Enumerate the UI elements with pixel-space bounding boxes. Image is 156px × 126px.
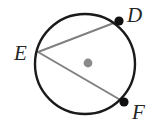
label-e: E — [13, 41, 27, 65]
label-f: F — [131, 100, 145, 124]
chord-ef — [38, 52, 124, 102]
point-d-dot — [114, 16, 123, 25]
label-d: D — [126, 3, 142, 27]
chord-ed — [38, 21, 119, 52]
center-point-marker — [84, 59, 93, 68]
point-f-dot — [119, 97, 128, 106]
figure-canvas: D E F — [0, 0, 156, 126]
geometry-figure: D E F — [0, 0, 156, 126]
